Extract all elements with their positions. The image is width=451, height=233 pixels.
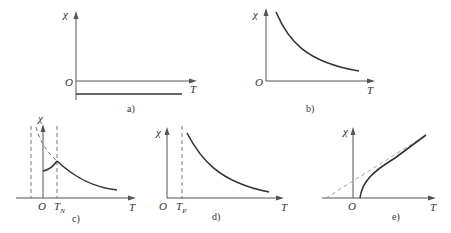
panel-e: χ T O e) xyxy=(322,125,437,223)
y-axis-arrow-icon xyxy=(351,127,356,135)
panel-caption: b) xyxy=(306,103,314,115)
y-axis-label: χ xyxy=(155,126,162,138)
panel-a: χ T O a) xyxy=(62,8,197,115)
neel-temp-label: TN xyxy=(54,200,65,215)
origin-label: O xyxy=(255,76,263,88)
x-axis-arrow-icon xyxy=(367,79,375,84)
origin-label: O xyxy=(348,200,356,212)
dashed-asymptote xyxy=(326,135,426,198)
y-axis-arrow-icon xyxy=(41,124,46,132)
origin-label: O xyxy=(65,76,73,88)
susceptibility-curve xyxy=(276,12,359,71)
x-axis-label: T xyxy=(430,201,437,213)
origin-label: O xyxy=(38,200,46,212)
x-axis-label: T xyxy=(129,201,136,213)
susceptibility-curve xyxy=(187,133,269,192)
x-axis-arrow-icon xyxy=(276,196,284,201)
low-temp-curve xyxy=(43,161,57,171)
curie-temp-label: TP xyxy=(176,200,187,215)
y-axis-label: χ xyxy=(62,8,69,20)
dashed-extrapolation xyxy=(36,127,57,161)
x-axis-label: T xyxy=(281,201,288,213)
x-axis-label: T xyxy=(367,84,374,96)
origin-label: O xyxy=(159,200,167,212)
inverse-susceptibility-curve xyxy=(360,135,426,198)
panel-caption: d) xyxy=(212,211,220,223)
panel-d: χ T O TP d) xyxy=(155,126,288,223)
y-axis-label: χ xyxy=(37,112,44,124)
y-axis-arrow-icon xyxy=(264,8,269,16)
high-temp-curve xyxy=(57,161,117,190)
susceptibility-figure: χ T O a) χ T O b) χ T O TN c) xyxy=(0,0,451,233)
x-axis-arrow-icon xyxy=(428,196,436,201)
x-axis-label: T xyxy=(190,83,197,95)
y-axis-arrow-icon xyxy=(165,127,170,135)
y-axis-label: χ xyxy=(252,8,259,20)
panel-c: χ T O TN c) xyxy=(16,112,136,225)
x-axis-arrow-icon xyxy=(128,196,136,201)
panel-caption: c) xyxy=(72,213,80,225)
panel-b: χ T O b) xyxy=(252,8,375,115)
y-axis-label: χ xyxy=(342,125,349,137)
panel-caption: e) xyxy=(392,211,400,223)
panel-caption: a) xyxy=(127,103,135,115)
y-axis-arrow-icon xyxy=(74,11,79,19)
